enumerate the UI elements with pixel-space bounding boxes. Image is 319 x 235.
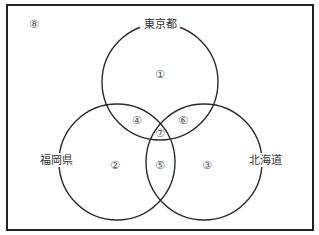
region-7: ⑦ <box>155 127 165 140</box>
region-6: ⑥ <box>178 114 188 127</box>
region-4: ④ <box>132 114 142 127</box>
venn-diagram: 東京都 福岡県 北海道 ① ② ③ ④ ⑤ ⑥ ⑦ ⑧ <box>0 0 319 235</box>
set-label-tokyo: 東京都 <box>144 17 177 31</box>
region-3: ③ <box>202 159 212 172</box>
set-label-fukuoka: 福岡県 <box>40 153 73 167</box>
set-label-hokkaido: 北海道 <box>249 153 282 167</box>
universe-frame <box>7 5 313 230</box>
region-8: ⑧ <box>29 18 39 31</box>
region-1: ① <box>155 68 165 81</box>
region-2: ② <box>110 159 120 172</box>
region-5: ⑤ <box>155 159 165 172</box>
